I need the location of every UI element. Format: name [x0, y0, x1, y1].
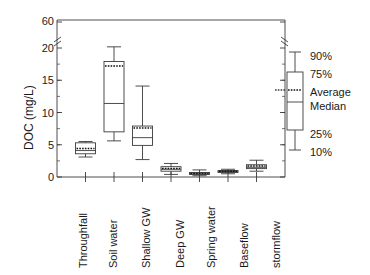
box-iqr-1	[104, 62, 124, 132]
x-tick-label-spring-water: Spring water	[205, 206, 217, 268]
y-tick-label-20: 20	[28, 42, 54, 54]
x-tick-label-deep-gw: Deep GW	[174, 220, 186, 268]
x-tick-label-stormflow: stormflow	[270, 221, 282, 268]
legend-label-p25: 25%	[310, 128, 332, 140]
y-tick-label-0: 0	[28, 171, 54, 183]
y-tick-label-5: 5	[28, 139, 54, 151]
x-tick-label-throughfall: Throughfall	[77, 213, 89, 268]
legend-label-p75: 75%	[310, 68, 332, 80]
legend-label-median: Median	[310, 100, 346, 112]
x-tick-label-shallow-gw: Shallow GW	[140, 207, 152, 268]
box-iqr-2	[133, 126, 153, 145]
y-tick-label-15: 15	[28, 74, 54, 86]
legend-label-average: Average	[310, 86, 351, 98]
y-tick-label-10: 10	[28, 107, 54, 119]
x-tick-label-baseflow: Baseflow	[238, 223, 250, 268]
legend-label-p10: 10%	[310, 146, 332, 158]
y-tick-label-60: 60	[28, 15, 54, 27]
legend-box-iqr	[287, 72, 303, 130]
legend-label-p90: 90%	[310, 50, 332, 62]
x-tick-label-soil-water: Soil water	[107, 220, 119, 268]
